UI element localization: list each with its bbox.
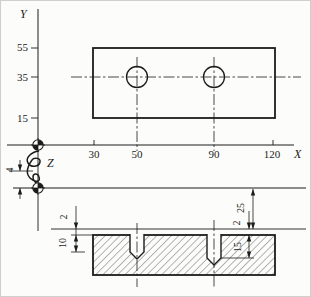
dim-25-value: 25 xyxy=(235,203,246,213)
y-tick-label-15: 15 xyxy=(17,112,29,124)
arrowhead-down xyxy=(18,165,22,172)
workpiece-drawing: Y X 55 35 15 30 50 90 120 Z xyxy=(1,1,311,297)
origin-symbol-bottom xyxy=(31,181,45,195)
x-tick-label-120: 120 xyxy=(264,148,281,160)
section-view: 2 10 25 2 15 xyxy=(51,189,306,289)
dim-2-left-value: 2 xyxy=(58,215,69,220)
y-axis-label: Y xyxy=(20,7,28,21)
y-tick-label-35: 35 xyxy=(17,71,29,83)
engineering-drawing-canvas: Y X 55 35 15 30 50 90 120 Z xyxy=(0,0,311,297)
z-axis-label: Z xyxy=(47,156,54,170)
part-outline-top-view xyxy=(93,48,275,118)
dim-4-value: 4 xyxy=(4,168,15,173)
y-tick-label-55: 55 xyxy=(17,41,29,53)
arrowhead-up xyxy=(18,188,22,195)
dim-10-value: 10 xyxy=(57,238,68,248)
origin-symbol-top xyxy=(31,138,45,152)
x-axis-label: X xyxy=(293,147,302,161)
top-view: Y X 55 35 15 30 50 90 120 xyxy=(7,7,302,161)
dim-15-value: 15 xyxy=(232,242,243,252)
origin-z-axis-area: Z 4 xyxy=(4,138,306,231)
dimension-10: 10 xyxy=(57,235,78,252)
x-tick-label-30: 30 xyxy=(89,148,101,160)
dim-2-right-value: 2 xyxy=(231,221,242,226)
